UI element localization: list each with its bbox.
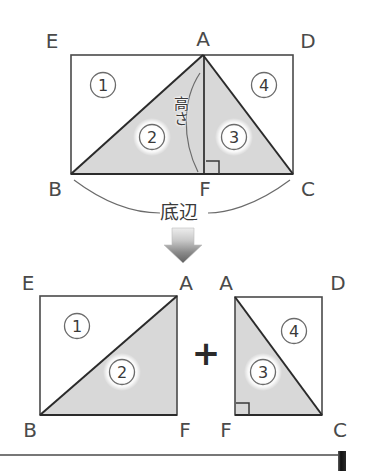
region-2-number: 2 xyxy=(147,128,157,147)
region-4-number-bottom: 4 xyxy=(289,322,299,341)
vertex-label-D-top: D xyxy=(300,29,315,53)
region-4-number: 4 xyxy=(259,76,269,95)
base-leader-left xyxy=(74,180,160,213)
vertex-label-A-top: A xyxy=(196,27,210,51)
vertex-label-D-bottom: D xyxy=(330,271,345,295)
figure-canvas: 1 2 3 4 1 2 xyxy=(0,0,368,471)
vertex-label-E-top: E xyxy=(46,29,59,53)
vertex-label-C-top: C xyxy=(301,177,315,201)
bottom-left-diagram xyxy=(40,296,177,415)
height-annotation: 高さ xyxy=(172,96,187,126)
region-2-number-bottom: 2 xyxy=(117,363,127,382)
region-1-number-bottom: 1 xyxy=(72,317,82,336)
vertex-label-F-top: F xyxy=(199,177,211,201)
region-1-number: 1 xyxy=(98,76,108,95)
region-badge-1-top: 1 xyxy=(91,73,116,98)
region-3-number: 3 xyxy=(229,128,239,147)
vertex-label-F-bottom-left: F xyxy=(179,418,191,442)
vertex-label-C-bottom: C xyxy=(333,418,347,442)
vertex-label-F-bottom-right: F xyxy=(220,418,232,442)
base-leader-right xyxy=(208,180,290,213)
diagram-svg: 1 2 3 4 1 2 xyxy=(0,0,368,471)
vertex-label-B-bottom: B xyxy=(23,418,37,442)
down-arrow xyxy=(164,228,202,263)
vertex-label-A-bottom-right: A xyxy=(219,271,233,295)
region-3-number-bottom: 3 xyxy=(258,363,268,382)
bottom-rule xyxy=(0,451,346,471)
vertex-label-E-bottom: E xyxy=(22,271,35,295)
bottom-right-marker xyxy=(338,451,346,471)
vertex-label-B-top: B xyxy=(48,177,62,201)
region-badge-4-top: 4 xyxy=(252,73,277,98)
vertex-label-A-bottom-left: A xyxy=(179,271,193,295)
bottom-right-diagram xyxy=(235,297,322,415)
base-annotation: 底辺 xyxy=(160,203,198,222)
plus-sign: + xyxy=(192,333,221,373)
